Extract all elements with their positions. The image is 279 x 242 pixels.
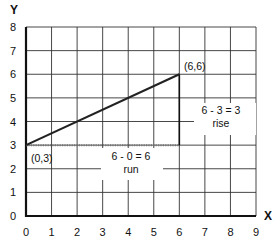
y-tick-label: 1	[10, 186, 16, 198]
y-tick-label: 4	[10, 116, 16, 128]
chart-canvas: 0123456789012345678 Y X (6,6) (0,3) 6 - …	[0, 0, 279, 242]
x-tick-label: 2	[74, 226, 80, 238]
slope-chart: 0123456789012345678 Y X (6,6) (0,3) 6 - …	[0, 0, 279, 242]
y-tick-label: 8	[10, 21, 16, 33]
x-tick-label: 4	[125, 226, 131, 238]
x-tick-label: 5	[151, 226, 157, 238]
y-tick-label: 6	[10, 68, 16, 80]
point-label-start: (0,3)	[31, 152, 53, 164]
y-tick-label: 7	[10, 45, 16, 57]
y-tick-label: 5	[10, 92, 16, 104]
rise-label: rise	[213, 117, 230, 129]
point-label-end: (6,6)	[184, 60, 206, 72]
run-label: run	[123, 163, 138, 175]
x-tick-label: 8	[227, 226, 233, 238]
x-tick-label: 0	[23, 226, 29, 238]
y-tick-label: 3	[10, 139, 16, 151]
rise-formula: 6 - 3 = 3	[202, 104, 241, 116]
x-tick-label: 9	[253, 226, 259, 238]
y-tick-label: 2	[10, 163, 16, 175]
y-axis-title: Y	[10, 3, 18, 17]
x-tick-label: 7	[202, 226, 208, 238]
x-tick-label: 6	[176, 226, 182, 238]
run-formula: 6 - 0 = 6	[112, 150, 151, 162]
y-tick-label: 0	[10, 210, 16, 222]
x-axis-title: X	[264, 209, 272, 223]
x-tick-label: 1	[48, 226, 54, 238]
x-tick-label: 3	[100, 226, 106, 238]
